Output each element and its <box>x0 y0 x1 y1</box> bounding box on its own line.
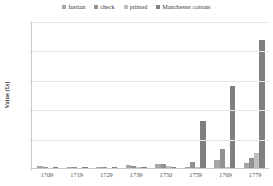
y-axis-tick-mark <box>30 110 32 111</box>
legend-item-label: fustian <box>68 3 85 10</box>
bar[interactable] <box>43 167 48 168</box>
bar[interactable] <box>141 167 146 168</box>
bar[interactable] <box>82 167 87 168</box>
y-axis-label: Value (£s) <box>3 82 10 109</box>
bar-group-1769 <box>210 22 240 168</box>
bar-group-1779 <box>240 22 270 168</box>
bar[interactable] <box>72 167 77 168</box>
chart-legend: fustiancheckprintedManchester cottons <box>0 3 273 10</box>
x-axis-ticks: 17091719172917391750175917691779 <box>32 171 270 179</box>
y-axis-tick-mark <box>30 169 32 170</box>
bar[interactable] <box>259 40 264 168</box>
legend-swatch-icon <box>62 5 66 9</box>
legend-item-label: check <box>100 3 114 10</box>
bar[interactable] <box>200 121 205 168</box>
bar-group-1729 <box>92 22 122 168</box>
gridline <box>32 22 269 23</box>
x-axis-tick-label: 1739 <box>121 171 151 179</box>
x-axis-tick-label: 1719 <box>62 171 92 179</box>
x-axis-tick-label: 1729 <box>92 171 122 179</box>
y-axis-tick-mark <box>30 51 32 52</box>
bar-group-1709 <box>33 22 63 168</box>
bar[interactable] <box>112 167 117 168</box>
legend-swatch-icon <box>124 5 128 9</box>
plot-area: Value (£s) 05000010000015000020000025000… <box>31 22 269 169</box>
legend-swatch-icon <box>156 5 160 9</box>
legend-swatch-icon <box>94 5 98 9</box>
y-axis-tick-mark <box>30 140 32 141</box>
legend-item-label: Manchester cottons <box>162 3 210 10</box>
legend-item-check[interactable]: check <box>94 3 114 10</box>
gridline <box>32 140 269 141</box>
bar[interactable] <box>171 167 176 168</box>
legend-item-printed[interactable]: printed <box>124 3 148 10</box>
bar-group-1759 <box>181 22 211 168</box>
x-axis-tick-label: 1759 <box>181 171 211 179</box>
x-axis-tick-label: 1769 <box>211 171 241 179</box>
gridline <box>32 110 269 111</box>
bar-group-1719 <box>63 22 93 168</box>
legend-item-fustian[interactable]: fustian <box>62 3 85 10</box>
bar-groups <box>33 22 269 168</box>
gridline <box>32 81 269 82</box>
x-axis-tick-label: 1750 <box>151 171 181 179</box>
y-axis-tick-mark <box>30 81 32 82</box>
bar[interactable] <box>53 167 58 168</box>
bar-group-1739 <box>122 22 152 168</box>
bar[interactable] <box>102 167 107 168</box>
x-axis-tick-label: 1779 <box>240 171 270 179</box>
gridline <box>32 51 269 52</box>
bar[interactable] <box>220 149 225 168</box>
y-axis-tick-mark <box>30 22 32 23</box>
bar[interactable] <box>230 86 235 168</box>
bar-chart: fustiancheckprintedManchester cottons Va… <box>0 0 273 186</box>
legend-item-label: printed <box>130 3 148 10</box>
bar-group-1750 <box>151 22 181 168</box>
legend-item-manchester-cottons[interactable]: Manchester cottons <box>156 3 210 10</box>
x-axis-tick-label: 1709 <box>32 171 62 179</box>
